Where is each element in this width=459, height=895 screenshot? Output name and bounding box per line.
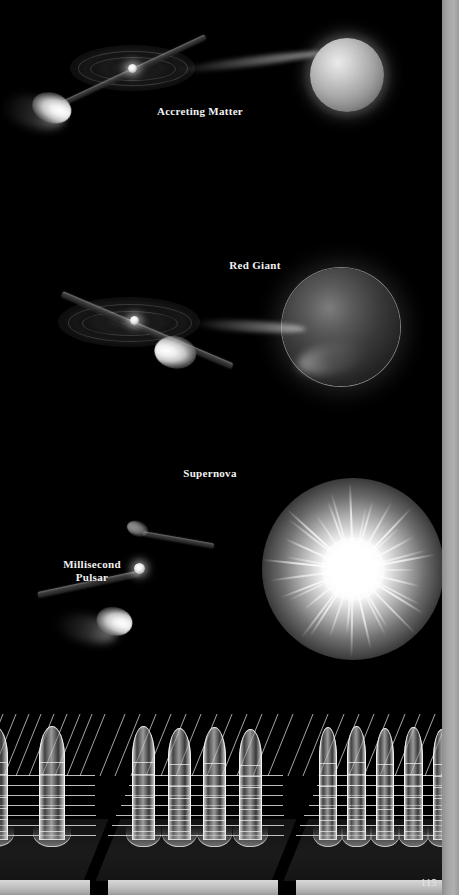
label-accreting-matter: Accreting Matter: [120, 105, 280, 118]
book-page: Accreting Matter Red Giant: [0, 0, 459, 895]
pulse-peak-rung: [433, 787, 442, 788]
label-red-giant: Red Giant: [195, 259, 315, 272]
plot-gridline: [287, 714, 313, 776]
pulse-profile-plot: [108, 700, 284, 895]
pulse-peak-rung: [347, 808, 365, 809]
pulse-peak-rung: [168, 786, 191, 787]
pulse-peak-rung: [239, 798, 262, 799]
pulse-peak-rung: [239, 765, 262, 766]
pulse-profile-plot: [296, 700, 442, 895]
companion-star: [310, 38, 384, 112]
pulse-peak-rung: [433, 798, 442, 799]
pulse-peak-rung: [168, 764, 191, 765]
pulse-peak: [404, 727, 422, 840]
plot-gridline: [99, 714, 125, 776]
pulse-peak: [376, 728, 394, 840]
pulse-peak-rung: [376, 786, 394, 787]
pulse-peak-rung: [433, 776, 442, 777]
pulse-peak-rung: [404, 774, 422, 775]
pulse-peak-rung: [132, 808, 155, 809]
pulse-peak: [347, 726, 365, 840]
pulse-peak-rung: [376, 775, 394, 776]
pulse-peak-rung: [347, 797, 365, 798]
pulse-peak-rung: [376, 764, 394, 765]
pulse-peak-rung: [433, 809, 442, 810]
pulse-peak-rung: [168, 809, 191, 810]
pulse-peak-rung: [0, 762, 8, 763]
pulse-peak-rung: [376, 797, 394, 798]
pulse-peak-rung: [239, 809, 262, 810]
pulse-peak-rung: [132, 774, 155, 775]
plot-gridline: [67, 714, 93, 776]
pulse-peak-rung: [203, 786, 226, 787]
plot-gridline: [16, 714, 42, 776]
pulse-peak-rung: [347, 819, 365, 820]
pulse-peak: [239, 729, 262, 840]
pulse-peak-rung: [239, 787, 262, 788]
pulse-peak-rung: [0, 808, 8, 809]
accretion-stream: [177, 48, 322, 75]
pulse-peak-rung: [0, 774, 8, 775]
pulse-peak-rung: [404, 820, 422, 821]
pulse-peak-rung: [203, 808, 226, 809]
pulse-peak-rung: [239, 776, 262, 777]
pulse-peak-rung: [319, 808, 337, 809]
pulse-peak: [319, 727, 337, 840]
pulse-peak-rung: [404, 763, 422, 764]
pulse-peak-rung: [319, 763, 337, 764]
pulse-peak-rung: [404, 797, 422, 798]
pulse-peak-rung: [168, 775, 191, 776]
pulse-peak-rung: [347, 785, 365, 786]
page-gutter: [442, 0, 459, 895]
pulsar-jet-axis: [143, 531, 215, 548]
pulse-peak-rung: [39, 808, 65, 809]
neutron-star: [130, 316, 139, 325]
label-supernova: Supernova: [150, 467, 270, 480]
pulse-peak-rung: [404, 786, 422, 787]
pulse-peak-rung: [0, 785, 8, 786]
pulse-peak: [0, 726, 8, 840]
pulse-peak-rung: [132, 785, 155, 786]
plot-gridline: [267, 714, 293, 776]
pulse-peak-rung: [433, 820, 442, 821]
pulse-peak-rung: [376, 820, 394, 821]
pulse-peak-rung: [39, 797, 65, 798]
pulse-peak-rung: [39, 774, 65, 775]
pulse-peak-rung: [132, 797, 155, 798]
pulse-peak-rung: [239, 820, 262, 821]
pulse-peak-rung: [433, 764, 442, 765]
pulse-peak-rung: [203, 820, 226, 821]
pulse-peak-rung: [319, 797, 337, 798]
pulse-peak-rung: [319, 775, 337, 776]
pulse-peak-rung: [319, 820, 337, 821]
neutron-star: [128, 64, 137, 73]
pulse-peak-rung: [203, 775, 226, 776]
pulse-peak-rung: [168, 798, 191, 799]
label-millisecond-pulsar: Millisecond Pulsar: [46, 558, 138, 584]
pulse-peak-rung: [347, 774, 365, 775]
pulse-peak: [203, 727, 226, 840]
pulse-peak-rung: [203, 763, 226, 764]
pulse-peak-rung: [132, 762, 155, 763]
illustration-canvas: Accreting Matter Red Giant: [0, 0, 442, 895]
plot-gridline: [79, 714, 105, 776]
pulse-peak-rung: [203, 797, 226, 798]
pulse-peak-rung: [404, 808, 422, 809]
pulse-peak: [39, 726, 65, 840]
pulse-peak: [168, 728, 191, 840]
pulse-profile-plot: [0, 700, 96, 895]
supernova-core: [321, 537, 385, 601]
pulse-peak: [132, 726, 155, 840]
pulse-peak: [433, 729, 442, 840]
pulse-profile-plots: [0, 700, 442, 895]
pulse-peak-rung: [39, 762, 65, 763]
pulse-peak-rung: [132, 819, 155, 820]
plot-base-front: [0, 880, 90, 895]
pulse-peak-rung: [319, 786, 337, 787]
pulse-peak-rung: [0, 819, 8, 820]
plot-base-front: [108, 880, 278, 895]
supernova-burst: [262, 478, 442, 660]
pulse-peak-rung: [347, 762, 365, 763]
pulse-peak-rung: [0, 797, 8, 798]
pulse-peak-rung: [39, 819, 65, 820]
